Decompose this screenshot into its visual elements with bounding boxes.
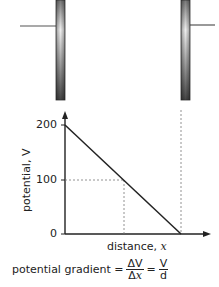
fraction-delta-v-over-delta-x: ΔV Δx <box>126 258 143 281</box>
fraction-denominator: d <box>160 270 167 281</box>
x-variable: x <box>136 269 142 282</box>
x-axis <box>65 231 211 237</box>
dashed-guides <box>65 110 181 234</box>
y-axis <box>61 111 68 234</box>
potential-line <box>65 125 181 234</box>
formula-prefix: potential gradient = <box>12 263 123 276</box>
delta-symbol: Δ <box>128 269 136 282</box>
x-axis-variable: x <box>161 240 167 253</box>
x-axis-label-text: distance, <box>107 240 161 253</box>
y-tick-0: 0 <box>50 227 57 240</box>
equals-sign: = <box>147 263 156 276</box>
potential-gradient-formula: potential gradient = ΔV Δx = V d <box>12 258 171 281</box>
fraction-denominator: Δx <box>128 270 142 281</box>
y-tick-200: 200 <box>36 118 57 131</box>
left-plate <box>20 0 65 100</box>
fraction-v-over-d: V d <box>159 258 169 281</box>
right-plate <box>181 0 215 100</box>
x-axis-label: distance, x <box>107 240 167 253</box>
y-axis-label: potential, V <box>20 149 33 212</box>
y-tick-100: 100 <box>36 173 57 186</box>
